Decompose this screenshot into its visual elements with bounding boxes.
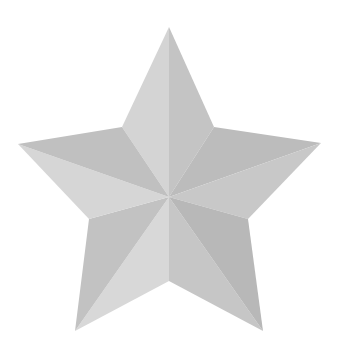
star-canvas bbox=[0, 0, 342, 360]
star-icon bbox=[0, 0, 342, 360]
